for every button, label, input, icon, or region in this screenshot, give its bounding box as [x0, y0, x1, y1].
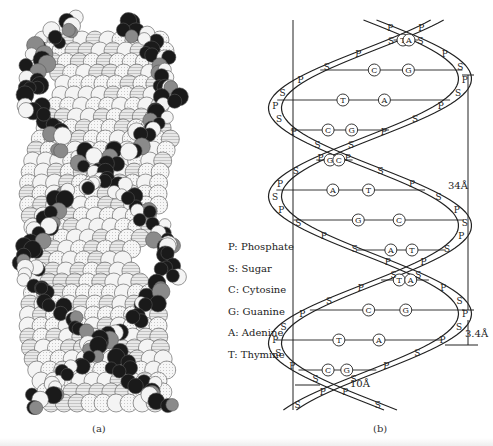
svg-text:P: P — [321, 231, 327, 241]
svg-text:S: S — [456, 322, 462, 332]
helix-schematic-panel: TACGTACGGCATGCATTACGTACG PSPSPSPSPSPSPSP… — [210, 0, 493, 420]
svg-text:C: C — [325, 366, 331, 375]
svg-text:P: P — [383, 361, 389, 371]
svg-text:S: S — [414, 348, 420, 358]
svg-text:C: C — [396, 216, 402, 225]
svg-text:P: P — [358, 283, 364, 293]
panel-b-caption: (b) — [373, 423, 387, 434]
legend-item-thymine: T: Thymine — [228, 344, 294, 366]
svg-text:P: P — [462, 75, 468, 85]
svg-text:G: G — [348, 126, 354, 135]
svg-text:S: S — [280, 88, 286, 98]
svg-text:P: P — [272, 101, 278, 111]
svg-text:S: S — [375, 400, 381, 410]
svg-text:A: A — [405, 36, 412, 45]
svg-text:C: C — [371, 66, 377, 75]
svg-text:S: S — [294, 400, 300, 410]
svg-text:S: S — [444, 244, 450, 254]
truncated-caption-strip — [0, 438, 493, 446]
svg-text:S: S — [462, 218, 468, 228]
svg-text:P: P — [299, 309, 305, 319]
svg-text:G: G — [403, 306, 409, 315]
svg-text:S: S — [415, 270, 421, 280]
svg-text:S: S — [455, 88, 461, 98]
svg-text:C: C — [325, 126, 331, 135]
svg-text:P: P — [440, 283, 446, 293]
svg-text:S: S — [324, 62, 330, 72]
svg-text:S: S — [312, 374, 318, 384]
base-spacing-label: 3.4Å — [465, 328, 488, 339]
svg-text:P: P — [420, 257, 426, 267]
svg-text:P: P — [355, 49, 361, 59]
legend-item-phosphate: P: Phosphate — [228, 236, 294, 258]
diameter-label: 10Å — [350, 378, 370, 389]
svg-text:P: P — [278, 205, 284, 215]
svg-text:A: A — [375, 336, 382, 345]
svg-text:P: P — [462, 309, 468, 319]
svg-text:T: T — [366, 186, 372, 195]
legend-item-adenine: A: Adenine — [228, 322, 294, 344]
space-filling-model-image — [0, 0, 200, 420]
svg-text:P: P — [320, 387, 326, 397]
svg-text:S: S — [391, 270, 397, 280]
svg-text:P: P — [438, 101, 444, 111]
svg-text:S: S — [326, 296, 332, 306]
svg-text:S: S — [456, 296, 462, 306]
legend-item-sugar: S: Sugar — [228, 258, 294, 280]
svg-text:P: P — [385, 257, 391, 267]
svg-text:S: S — [276, 114, 282, 124]
svg-text:P: P — [387, 23, 393, 33]
svg-text:S: S — [295, 218, 301, 228]
pitch-label: 34Å — [448, 180, 468, 191]
svg-text:P: P — [291, 127, 297, 137]
svg-text:S: S — [457, 62, 463, 72]
legend-item-guanine: G: Guanine — [228, 301, 294, 323]
svg-text:G: G — [327, 156, 333, 165]
svg-text:P: P — [381, 127, 387, 137]
svg-text:S: S — [315, 140, 321, 150]
svg-text:A: A — [387, 246, 394, 255]
svg-text:P: P — [317, 153, 323, 163]
svg-text:A: A — [381, 96, 388, 105]
svg-text:P: P — [298, 75, 304, 85]
svg-text:S: S — [377, 166, 383, 176]
svg-text:P: P — [442, 49, 448, 59]
svg-text:G: G — [355, 216, 361, 225]
svg-text:T: T — [340, 96, 346, 105]
svg-text:S: S — [293, 166, 299, 176]
svg-text:S: S — [388, 36, 394, 46]
svg-text:G: G — [405, 66, 411, 75]
svg-text:S: S — [412, 114, 418, 124]
svg-text:C: C — [336, 156, 342, 165]
panel-a-caption: (a) — [92, 423, 106, 434]
svg-text:A: A — [407, 276, 414, 285]
svg-text:S: S — [435, 192, 441, 202]
space-filling-model-panel — [0, 0, 200, 420]
svg-text:P: P — [439, 335, 445, 345]
svg-text:P: P — [345, 153, 351, 163]
svg-text:P: P — [409, 179, 415, 189]
svg-text:P: P — [458, 231, 464, 241]
svg-text:P: P — [342, 387, 348, 397]
svg-text:S: S — [348, 140, 354, 150]
legend-item-cytosine: C: Cytosine — [228, 279, 294, 301]
legend: P: Phosphate S: Sugar C: Cytosine G: Gua… — [228, 236, 294, 365]
svg-text:C: C — [366, 306, 372, 315]
svg-text:P: P — [454, 205, 460, 215]
svg-text:T: T — [336, 336, 342, 345]
svg-text:S: S — [272, 192, 278, 202]
svg-text:P: P — [277, 179, 283, 189]
svg-text:T: T — [409, 246, 415, 255]
svg-text:P: P — [418, 23, 424, 33]
svg-text:T: T — [397, 276, 403, 285]
svg-text:S: S — [352, 244, 358, 254]
svg-text:G: G — [344, 366, 350, 375]
svg-text:S: S — [418, 36, 424, 46]
svg-text:A: A — [329, 186, 336, 195]
